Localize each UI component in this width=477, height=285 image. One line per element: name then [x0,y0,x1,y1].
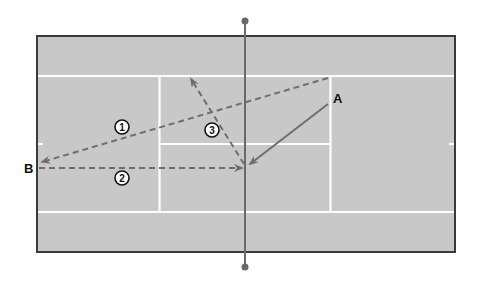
shot-badge-1: 1 [115,120,129,134]
badge-number: 1 [119,122,125,133]
player-a-label: A [333,91,343,106]
badge-number: 2 [119,173,125,184]
player-b-label: B [24,161,33,176]
net-post-top-icon [242,18,249,25]
badge-number: 3 [209,125,215,136]
shot-badge-3: 3 [205,123,219,137]
shot-badge-2: 2 [115,171,129,185]
net-post-bottom-icon [242,264,249,271]
tennis-court-diagram: A B 1 2 3 [0,0,477,285]
